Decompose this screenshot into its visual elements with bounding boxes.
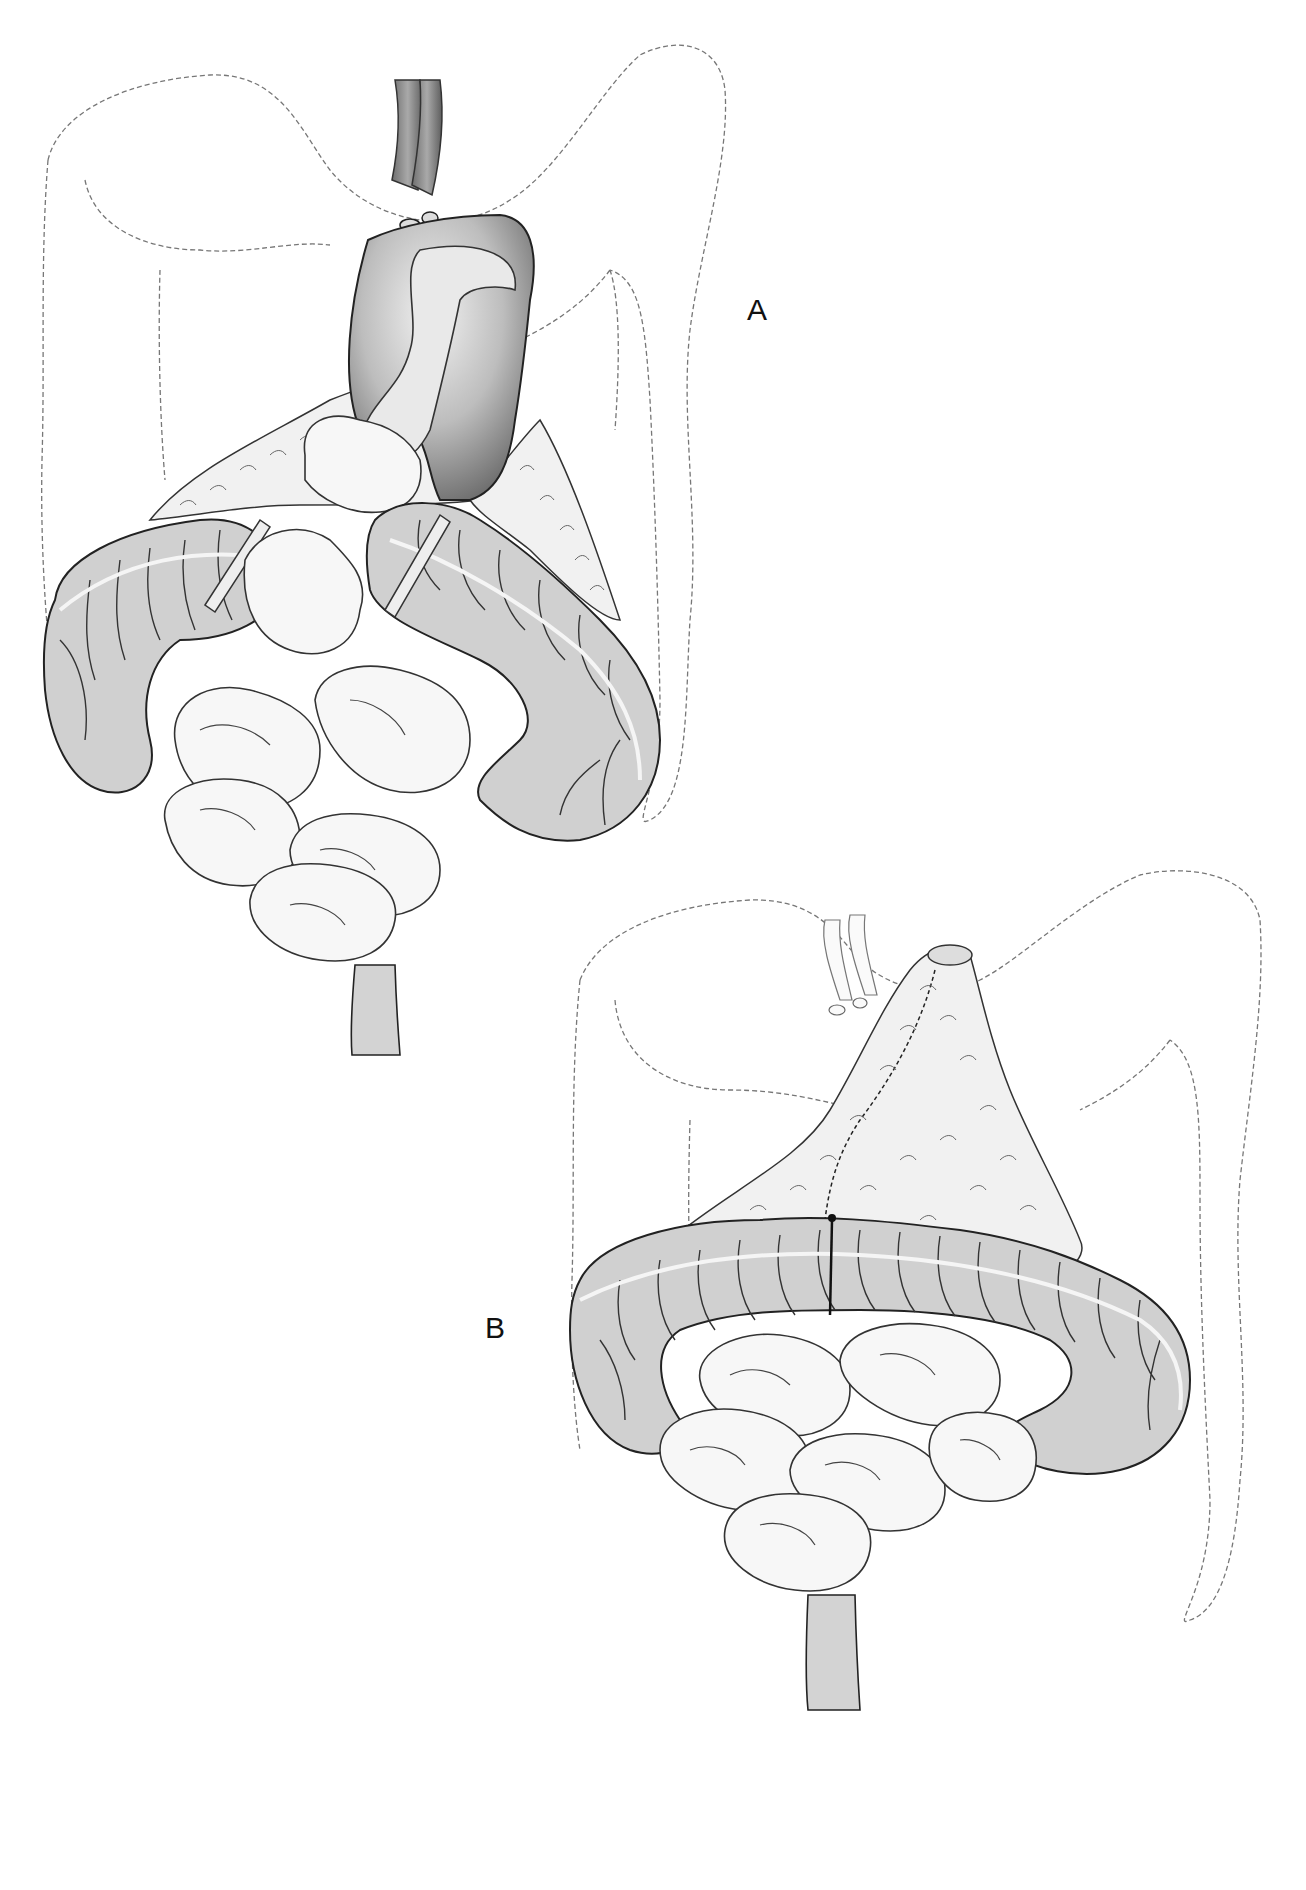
vessel-outline-right — [849, 915, 877, 995]
panel-b: B — [560, 860, 1306, 1890]
small-bowel-mid-right — [315, 666, 470, 792]
inner-outline-right — [520, 270, 618, 430]
vessel-stump-right-b — [853, 998, 867, 1008]
panel-label-b: B — [485, 1313, 505, 1343]
vessel-outline-left — [824, 920, 852, 1000]
small-bowel-b-bottom — [725, 1494, 871, 1591]
rectum — [351, 965, 400, 1055]
panel-label-a: A — [747, 295, 767, 325]
rectum-b — [806, 1595, 860, 1710]
omental-cone-opening — [928, 945, 972, 965]
vessel-stump-left-b — [829, 1005, 845, 1015]
small-bowel-upper — [244, 530, 362, 654]
small-bowel-b-right — [840, 1324, 1000, 1426]
small-bowel-bottom — [250, 864, 396, 961]
anastomosis-knot — [828, 1214, 836, 1222]
panel-b-illustration — [560, 860, 1306, 1890]
